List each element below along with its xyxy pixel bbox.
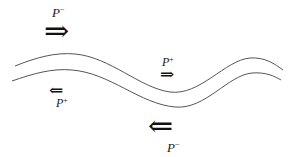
label-sup: + xyxy=(169,55,173,64)
double-arrow-right-icon: ⇒ xyxy=(44,16,69,46)
double-arrow-right-icon: ⇒ xyxy=(160,66,174,83)
label-p-minus-bottom: P− xyxy=(167,140,180,154)
label-sup: + xyxy=(63,96,67,105)
double-arrow-left-icon: ⇐ xyxy=(148,111,173,141)
label-p-plus-left: P+ xyxy=(56,97,68,109)
label-sup: − xyxy=(175,139,180,149)
label-base: P xyxy=(167,140,175,155)
label-sup: − xyxy=(60,4,65,14)
